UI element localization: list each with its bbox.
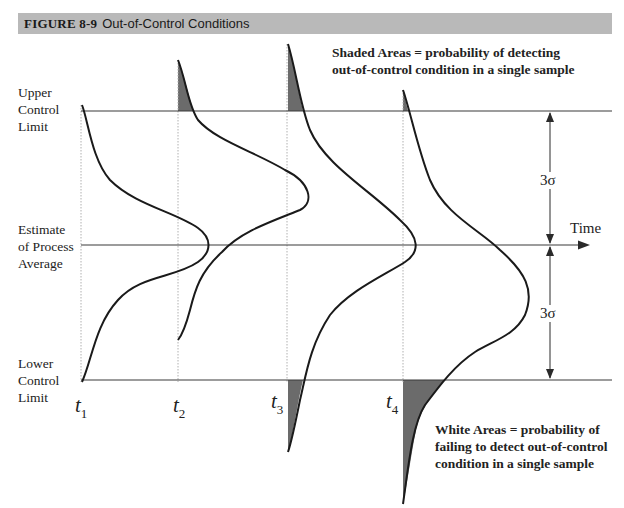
arrow-up-icon: [546, 112, 554, 122]
time-arrow-icon: [578, 241, 590, 250]
arrow-down-icon: [546, 234, 554, 244]
time-guides: [81, 44, 403, 382]
arrow-down-icon: [546, 369, 554, 379]
time-marker-t1: t1: [75, 393, 87, 422]
curve-t1: [82, 105, 209, 382]
time-marker-t4: t4: [386, 389, 398, 418]
process-average-label: Estimate of Process Average: [18, 221, 74, 272]
sigma-lower-label: 3σ: [538, 305, 558, 322]
lower-control-limit-label: Lower Control Limit: [18, 355, 59, 406]
upper-control-limit-label: Upper Control Limit: [18, 84, 59, 135]
reference-lines: [81, 111, 612, 380]
sigma-upper-label: 3σ: [538, 172, 558, 189]
shaded-areas-note: Shaded Areas = probability of detecting …: [332, 44, 574, 78]
arrow-up-icon: [546, 246, 554, 256]
time-marker-t3: t3: [271, 389, 283, 418]
time-axis-label: Time: [570, 220, 601, 237]
time-marker-t2: t2: [173, 393, 185, 422]
shaded-areas: [178, 44, 444, 504]
white-areas-note: White Areas = probability of failing to …: [435, 421, 608, 472]
